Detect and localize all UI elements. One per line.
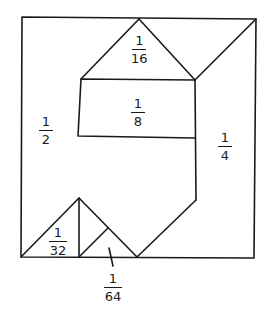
label-quarter-num: 1 [221, 131, 229, 144]
label-sixtyfourth-num: 1 [109, 272, 117, 285]
label-half: 1 2 [39, 115, 53, 146]
label-half-num: 1 [42, 115, 50, 128]
quarter-diagonal-top [195, 19, 256, 80]
label-eighth-den: 8 [134, 115, 142, 128]
fraction-bar [132, 49, 146, 50]
quarter-diagonal-bottom [137, 200, 196, 257]
label-eighth-num: 1 [134, 97, 142, 110]
fraction-bar [104, 287, 122, 288]
label-sixteenth-den: 16 [131, 52, 148, 65]
label-thirtysecond: 1 32 [49, 226, 67, 257]
sixtyfourth-diagonal [79, 228, 108, 257]
label-quarter-den: 4 [221, 149, 229, 162]
label-thirtysecond-den: 32 [50, 244, 67, 257]
quarter-vertical [195, 80, 196, 200]
label-sixtyfourth: 1 64 [104, 272, 122, 303]
label-quarter: 1 4 [218, 131, 232, 162]
label-eighth: 1 8 [131, 97, 145, 128]
label-sixteenth-num: 1 [135, 34, 143, 47]
label-thirtysecond-num: 1 [54, 226, 62, 239]
fraction-bar [49, 241, 67, 242]
fraction-bar [39, 130, 53, 131]
label-sixteenth: 1 16 [131, 34, 148, 65]
label-half-den: 2 [42, 133, 50, 146]
fraction-bar [218, 146, 232, 147]
fraction-bar [131, 112, 145, 113]
label-sixtyfourth-den: 64 [105, 290, 122, 303]
